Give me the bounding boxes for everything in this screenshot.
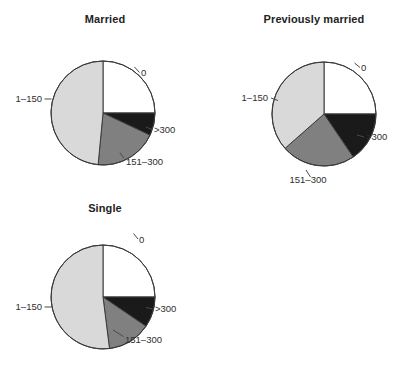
pie-svg-single: 0 >300 151–300 1–150 <box>0 190 210 375</box>
pie-slice-0 <box>103 245 155 297</box>
pie-slice-1-150 <box>51 61 103 165</box>
pie-slices-previously-married <box>272 62 376 166</box>
pie-slice-0 <box>103 61 155 113</box>
pie-label-mid: 151–300 <box>126 156 163 167</box>
pie-panel-single: Single 0 >300 151–300 1–150 <box>0 190 210 375</box>
pie-label-zero: 0 <box>141 67 146 78</box>
pie-panel-married: Married 0 >300 151–300 1–150 <box>0 0 210 190</box>
pie-label-zero: 0 <box>361 62 366 73</box>
pie-label-mid: 151–300 <box>125 334 162 345</box>
pie-slices-married <box>51 61 155 165</box>
pie-slice-0 <box>324 62 376 114</box>
pie-label-low: 1–150 <box>242 92 268 103</box>
pie-label-low: 1–150 <box>16 93 42 104</box>
pie-label-high: >300 <box>155 303 176 314</box>
pie-label-high: >300 <box>366 131 387 142</box>
pie-label-high: >300 <box>154 124 175 135</box>
pie-slice-1-150 <box>51 245 110 349</box>
pie-chart-figure: { "figure": { "colors": { "zero": "#ffff… <box>0 0 419 375</box>
leader-line-zero <box>355 63 361 68</box>
pie-svg-married: 0 >300 151–300 1–150 <box>0 0 210 190</box>
pie-label-low: 1–150 <box>16 301 42 312</box>
pie-svg-previously-married: 0 >300 151–300 1–150 <box>209 0 419 200</box>
pie-panel-previously-married: Previously married 0 >300 151–300 1–150 <box>209 0 419 200</box>
pie-label-zero: 0 <box>139 234 144 245</box>
leader-line-zero <box>134 234 139 240</box>
pie-label-mid: 151–300 <box>290 174 327 185</box>
